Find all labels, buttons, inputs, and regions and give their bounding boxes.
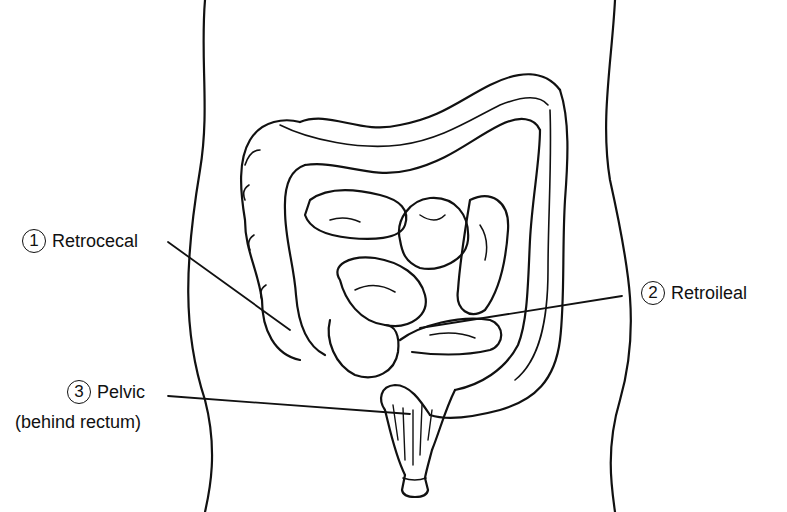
- label-retroileal: 2Retroileal: [641, 281, 747, 305]
- leader-line-retrocecal: [168, 242, 290, 330]
- label-number-2: 2: [641, 281, 665, 305]
- label-text-pelvic: Pelvic: [97, 382, 145, 402]
- body-outline-left: [188, 0, 212, 512]
- label-retrocecal: 1Retrocecal: [22, 229, 138, 253]
- leader-line-retroileal: [420, 296, 622, 328]
- label-text-retroileal: Retroileal: [671, 283, 747, 303]
- label-number-3: 3: [67, 380, 91, 404]
- leader-line-pelvic: [168, 396, 410, 414]
- body-outline-right: [606, 0, 631, 512]
- label-text-retrocecal: Retrocecal: [52, 231, 138, 251]
- label-pelvic: 3Pelvic: [67, 380, 145, 404]
- label-number-1: 1: [22, 229, 46, 253]
- label-pelvic-subtext: (behind rectum): [15, 412, 141, 433]
- colon-illustration: [0, 0, 787, 512]
